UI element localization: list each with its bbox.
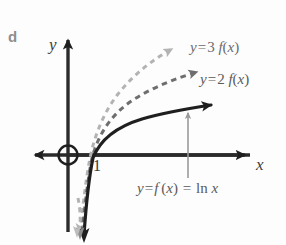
label-base-close-paren: )	[173, 180, 178, 196]
label-2f-equals: =	[207, 71, 217, 87]
curve-label-3f: y=3 f(x)	[190, 40, 239, 55]
graph-canvas	[0, 0, 286, 245]
part-letter-label: d	[8, 29, 17, 44]
y-axis-label: y	[49, 36, 57, 53]
label-2f-coefficient: 2	[217, 71, 225, 87]
label-2f-close-paren: )	[244, 71, 249, 87]
label-3f-coefficient: 3	[207, 39, 215, 55]
curve-f	[84, 105, 211, 235]
label-base-ln-variable: x	[211, 180, 218, 196]
label-3f-y: y	[190, 39, 197, 55]
label-3f-close-paren: )	[234, 39, 239, 55]
label-base-variable: x	[166, 180, 173, 196]
curve-2f	[82, 72, 197, 232]
label-base-function: f	[154, 180, 158, 196]
x-axis-label: x	[256, 156, 264, 173]
curve-label-base: y=f (x) = ln x	[137, 181, 218, 196]
figure-panel: d y x 1 y=3 f(x) y=2 f(x) y=f (x) = ln x	[0, 0, 286, 245]
label-3f-equals: =	[197, 39, 207, 55]
label-base-ln: ln	[196, 180, 208, 196]
label-base-equals-1: =	[144, 180, 154, 196]
curve-label-2f: y=2 f(x)	[200, 72, 249, 87]
label-base-equals-2: =	[182, 180, 192, 196]
curve-3f	[80, 49, 172, 232]
label-base-y: y	[137, 180, 144, 196]
label-2f-y: y	[200, 71, 207, 87]
x-tick-label-one: 1	[93, 158, 101, 174]
